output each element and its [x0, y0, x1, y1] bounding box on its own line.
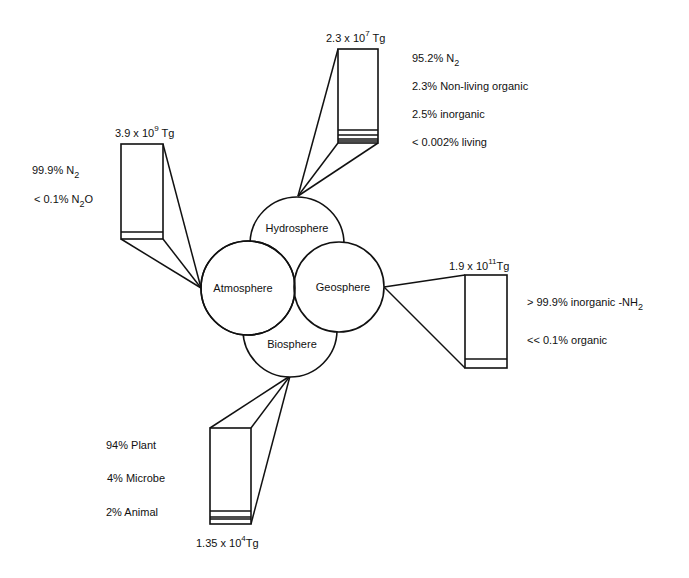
composition-label: 95.2% N2 — [412, 52, 459, 68]
composition-label: 94% Plant — [106, 439, 156, 451]
composition-label: 2% Animal — [106, 506, 158, 518]
atmosphere-reservoir-box — [121, 144, 163, 239]
connector-line — [163, 144, 201, 288]
connector-line — [121, 239, 201, 288]
atmosphere-label: Atmosphere — [213, 282, 272, 294]
composition-label: 2.3% Non-living organic — [412, 80, 529, 92]
atmosphere-reservoir-mass-label: 3.9 x 109 Tg — [115, 124, 174, 139]
composition-label: 4% Microbe — [107, 472, 165, 484]
biosphere-label: Biosphere — [267, 338, 317, 350]
connector-line — [251, 376, 290, 428]
composition-label: 2.5% inorganic — [412, 108, 485, 120]
biosphere-reservoir-box — [210, 428, 251, 524]
composition-label: << 0.1% organic — [527, 334, 608, 346]
biosphere-reservoir-mass-label: 1.35 x 104Tg — [196, 534, 259, 549]
geosphere-label: Geosphere — [316, 281, 370, 293]
composition-label: < 0.1% N2O — [34, 193, 94, 209]
geosphere-reservoir-box — [465, 275, 507, 368]
connector-line — [384, 287, 465, 368]
connector-line — [298, 143, 338, 196]
nitrogen-reservoir-diagram: HydrosphereAtmosphereGeosphereBiosphere2… — [0, 0, 689, 578]
hydrosphere-reservoir-box — [338, 49, 378, 143]
composition-label: > 99.9% inorganic -NH2 — [527, 296, 643, 312]
connector-line — [384, 275, 465, 287]
hydrosphere-label: Hydrosphere — [266, 222, 329, 234]
hydrosphere-reservoir-mass-label: 2.3 x 107 Tg — [326, 29, 385, 44]
composition-label: 99.9% N2 — [32, 164, 79, 180]
composition-label: < 0.002% living — [412, 136, 487, 148]
geosphere-reservoir-mass-label: 1.9 x 1011Tg — [449, 257, 509, 272]
